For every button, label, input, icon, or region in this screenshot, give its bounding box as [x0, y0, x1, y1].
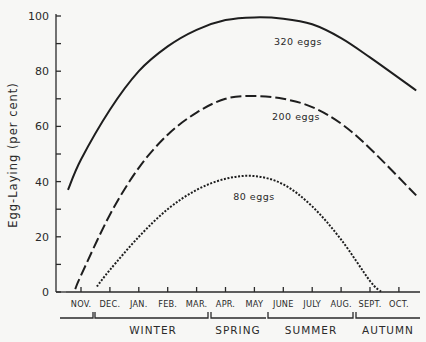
- month-label: AUG.: [330, 299, 351, 309]
- season-bracket: [60, 312, 93, 318]
- season-bracket: [211, 312, 266, 318]
- month-label: APR.: [216, 299, 235, 309]
- month-label: JULY: [302, 299, 321, 309]
- month-label: SEPT.: [359, 299, 382, 309]
- month-label: JUNE: [272, 299, 294, 309]
- y-axis: 020406080100: [28, 10, 61, 299]
- season-label-spring: SPRING: [215, 324, 260, 336]
- month-label: NOV.: [71, 299, 91, 309]
- plot-area: [68, 17, 416, 292]
- y-tick-label: 20: [35, 231, 49, 244]
- month-label: DEC.: [100, 299, 121, 309]
- y-axis-label: Egg-Laying (per cent): [6, 82, 20, 228]
- series-label-320: 320 eggs: [274, 36, 322, 47]
- month-label: OCT.: [389, 299, 409, 309]
- month-label: MAR.: [186, 299, 207, 309]
- y-tick-label: 0: [42, 286, 49, 299]
- month-label: JAN.: [129, 299, 147, 309]
- season-brackets: WINTERSPRINGSUMMERAUTUMN: [60, 312, 420, 336]
- month-label: MAY: [246, 299, 264, 309]
- y-tick-label: 80: [35, 65, 49, 78]
- season-label-summer: SUMMER: [285, 324, 337, 336]
- month-label: FEB.: [158, 299, 177, 309]
- season-label-winter: WINTER: [129, 324, 177, 336]
- series-label-80: 80 eggs: [233, 191, 274, 202]
- season-bracket: [356, 312, 420, 318]
- y-tick-label: 40: [35, 176, 49, 189]
- season-bracket: [95, 312, 208, 318]
- season-bracket: [268, 312, 353, 318]
- season-label-autumn: AUTUMN: [362, 324, 414, 336]
- y-tick-label: 60: [35, 120, 49, 133]
- egg-laying-chart: Egg-Laying (per cent) 020406080100 NOV.D…: [0, 0, 426, 342]
- y-tick-label: 100: [28, 10, 49, 23]
- series-label-200: 200 eggs: [272, 111, 320, 122]
- x-axis: NOV.DEC.JAN.FEB.MAR.APR.MAYJUNEJULYAUG.S…: [56, 287, 420, 309]
- curve-320-eggs: [68, 17, 416, 190]
